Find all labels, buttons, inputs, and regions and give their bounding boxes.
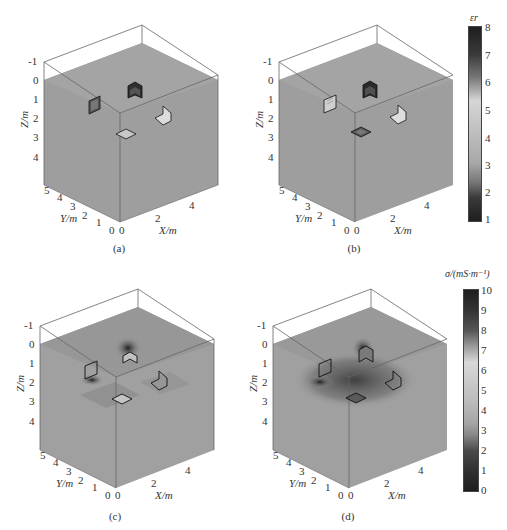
y-tick: 0 [344, 224, 350, 236]
x-axis-label: X/m [387, 489, 406, 501]
z-tick: -1 [28, 55, 37, 67]
colorbar-tick: 4 [481, 405, 487, 416]
z-tick: 1 [262, 357, 268, 369]
y-tick: 2 [317, 209, 323, 221]
caption-a: (a) [104, 242, 134, 254]
colorbar-tick: 8 [485, 22, 491, 33]
caption-d: (d) [333, 510, 363, 522]
y-tick: 2 [82, 209, 88, 221]
z-tick: 2 [29, 376, 35, 388]
y-tick: 4 [286, 456, 292, 468]
z-tick: 2 [268, 112, 274, 124]
colorbar-tick: 4 [485, 133, 491, 144]
panel-a: -1 0 1 2 3 4 Z/m 5 4 3 2 1 0 Y/m 0 2 4 X… [0, 0, 250, 250]
y-tick: 0 [105, 489, 111, 501]
y-tick: 2 [78, 474, 84, 486]
x-tick: 2 [384, 477, 390, 489]
y-tick: 1 [331, 216, 337, 228]
z-tick: 2 [262, 376, 268, 388]
z-tick: -1 [24, 319, 33, 331]
y-tick: 4 [53, 456, 59, 468]
z-tick: 1 [268, 93, 274, 105]
colorbar-permittivity [468, 26, 482, 222]
z-tick: 3 [33, 131, 39, 143]
y-tick: 3 [299, 465, 305, 477]
panel-c: -1 0 1 2 3 4 Z/m 5 4 3 2 1 0 Y/m 0 2 4 X… [0, 262, 250, 530]
y-axis-label: Y/m [60, 212, 77, 224]
colorbar-tick: 1 [485, 214, 491, 225]
colorbar-tick: 7 [485, 50, 491, 61]
x-axis-label: X/m [393, 224, 412, 236]
x-tick: 0 [119, 224, 125, 236]
z-tick: 1 [33, 93, 39, 105]
x-tick: 0 [115, 489, 121, 501]
x-tick: 4 [424, 199, 430, 211]
cube-plot-d: -1 0 1 2 3 4 Z/m 5 4 3 2 1 0 Y/m 0 2 4 X… [220, 262, 470, 530]
x-tick: 2 [390, 212, 396, 224]
y-tick: 0 [109, 224, 115, 236]
x-tick: 2 [155, 212, 161, 224]
colorbar-tick: 5 [485, 105, 491, 116]
cube-plot-c: -1 0 1 2 3 4 Z/m 5 4 3 2 1 0 Y/m 0 2 4 X… [0, 262, 250, 530]
x-axis-label: X/m [154, 489, 173, 501]
colorbar-tick: 3 [485, 160, 491, 171]
x-tick: 0 [354, 224, 360, 236]
y-tick: 1 [325, 481, 331, 493]
x-axis-label: X/m [158, 224, 177, 236]
y-axis-label: Y/m [295, 212, 312, 224]
y-tick: 4 [292, 191, 298, 203]
z-tick: 4 [33, 151, 39, 163]
x-tick: 4 [185, 464, 191, 476]
z-tick: 0 [33, 74, 39, 86]
y-tick: 1 [92, 481, 98, 493]
y-tick: 3 [66, 465, 72, 477]
caption-c: (c) [100, 510, 130, 522]
z-tick: 4 [29, 415, 35, 427]
colorbar-conductivity [463, 289, 479, 492]
colorbar-tick: 8 [481, 325, 487, 336]
y-axis-label: Y/m [289, 477, 306, 489]
x-tick: 0 [348, 489, 354, 501]
z-tick: 3 [29, 395, 35, 407]
colorbar-tick: 7 [481, 345, 487, 356]
y-tick: 2 [311, 474, 317, 486]
z-tick: 4 [262, 415, 268, 427]
z-axis-label: Z/m [18, 111, 30, 128]
z-tick: 0 [29, 338, 35, 350]
z-tick: -1 [257, 319, 266, 331]
colorbar-tick: 5 [481, 385, 487, 396]
z-tick: -1 [263, 55, 272, 67]
y-tick: 0 [338, 489, 344, 501]
y-tick: 3 [70, 200, 76, 212]
z-tick: 1 [29, 357, 35, 369]
x-tick: 4 [189, 199, 195, 211]
y-tick: 3 [305, 200, 311, 212]
y-tick: 5 [279, 184, 285, 196]
colorbar-tick: 0 [481, 485, 487, 496]
colorbar-permittivity-title: εr [470, 12, 478, 23]
colorbar-conductivity-title: σ/(mS·m⁻¹) [445, 268, 490, 279]
caption-b: (b) [339, 242, 369, 254]
x-tick: 2 [151, 477, 157, 489]
panel-d: -1 0 1 2 3 4 Z/m 5 4 3 2 1 0 Y/m 0 2 4 X… [220, 262, 470, 530]
y-tick: 5 [44, 184, 50, 196]
y-tick: 5 [273, 449, 279, 461]
z-tick: 4 [268, 151, 274, 163]
z-tick: 0 [268, 74, 274, 86]
cube-plot-b: -1 0 1 2 3 4 Z/m 5 4 3 2 1 0 Y/m 0 2 4 X… [220, 0, 470, 250]
panel-b: -1 0 1 2 3 4 Z/m 5 4 3 2 1 0 Y/m 0 2 4 X… [220, 0, 470, 250]
z-tick: 3 [262, 395, 268, 407]
cube-plot-a: -1 0 1 2 3 4 Z/m 5 4 3 2 1 0 Y/m 0 2 4 X… [0, 0, 250, 250]
z-axis-label: Z/m [14, 375, 26, 392]
colorbar-tick: 1 [481, 465, 487, 476]
z-tick: 0 [262, 338, 268, 350]
colorbar-tick: 6 [485, 77, 491, 88]
y-tick: 5 [40, 449, 46, 461]
colorbar-tick: 6 [481, 365, 487, 376]
z-axis-label: Z/m [253, 111, 265, 128]
colorbar-tick: 10 [481, 285, 492, 296]
y-axis-label: Y/m [56, 477, 73, 489]
colorbar-tick: 2 [481, 445, 487, 456]
z-tick: 3 [268, 131, 274, 143]
y-tick: 1 [96, 216, 102, 228]
